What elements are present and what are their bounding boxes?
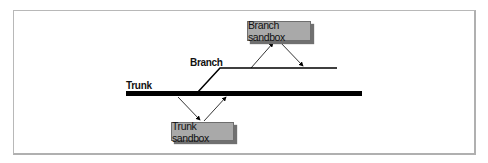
trunk-sandbox-box: Trunk sandbox — [171, 122, 234, 141]
trunk-label: Trunk — [126, 80, 152, 91]
sandbox-to-branch-arrow — [280, 42, 303, 66]
branch-line — [197, 68, 337, 93]
branch-to-sandbox-arrow — [251, 43, 273, 68]
branch-label: Branch — [190, 57, 223, 68]
sandbox-to-trunk-arrow — [204, 97, 226, 121]
branch-sandbox-box: Branch sandbox — [247, 21, 311, 41]
trunk-line — [126, 91, 362, 96]
trunk-to-sandbox-arrow — [178, 97, 200, 120]
diagram-lines — [0, 0, 488, 163]
